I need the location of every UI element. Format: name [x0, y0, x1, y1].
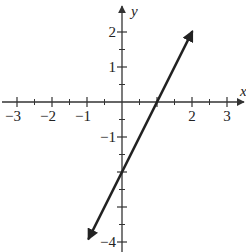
x-tick-label: −3: [5, 108, 21, 124]
axes: [2, 6, 244, 252]
y-tick-label: 2: [109, 24, 117, 40]
x-tick-label: −1: [75, 108, 91, 124]
y-tick-label: −4: [100, 234, 116, 250]
y-tick-label: 1: [109, 59, 117, 75]
x-tick-label: −2: [40, 108, 56, 124]
x-tick-label: 2: [188, 108, 196, 124]
y-axis-label: y: [129, 3, 138, 19]
coordinate-plane: −3−2−12321−1−4 x y: [0, 0, 246, 252]
x-axis-label: x: [239, 83, 246, 99]
y-tick-label: −1: [100, 129, 116, 145]
x-tick-label: 3: [223, 108, 231, 124]
